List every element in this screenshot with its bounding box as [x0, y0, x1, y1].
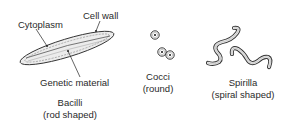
label-bacilli: Bacilli — [58, 97, 83, 108]
label-cell-wall: Cell wall — [83, 10, 118, 21]
label-genetic-material: Genetic material — [40, 77, 109, 88]
cytoplasm-leader-line — [36, 29, 47, 46]
caption-cocci: (round) — [143, 83, 174, 94]
cell-wall-leader-line — [96, 21, 100, 31]
label-cytoplasm: Cytoplasm — [18, 19, 63, 30]
spirilla-cells — [208, 28, 270, 67]
label-cocci: Cocci — [146, 71, 170, 82]
caption-spirilla: (spiral shaped) — [212, 89, 275, 100]
label-spirilla: Spirilla — [229, 77, 258, 88]
cocci-cells — [151, 31, 174, 59]
bacillus-cell — [18, 25, 117, 71]
caption-bacilli: (rod shaped) — [43, 109, 97, 120]
